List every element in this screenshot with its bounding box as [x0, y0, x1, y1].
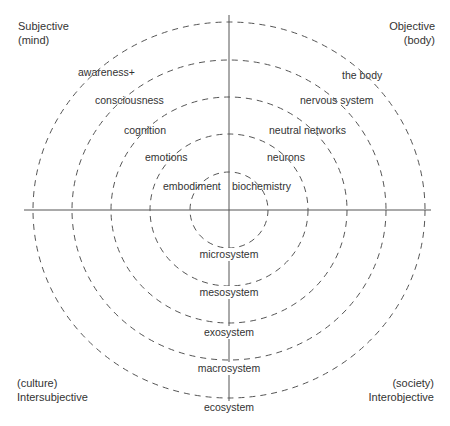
quadrant-bottom-right-title: Interobjective [369, 390, 434, 404]
systems-level-4: macrosystem [197, 362, 261, 375]
subjective-level-5: awareness+ [78, 66, 135, 79]
quadrant-top-right-label: Objective (body) [389, 19, 435, 47]
quadrant-bottom-right-label: (society) Interobjective [369, 376, 434, 404]
quadrant-top-left-label: Subjective (mind) [18, 19, 69, 47]
subjective-level-4: consciousness [95, 94, 164, 107]
objective-level-3: neutral networks [269, 124, 346, 137]
objective-level-2: neurons [267, 151, 305, 164]
quadrant-bottom-right-subtitle: (society) [369, 376, 434, 390]
systems-level-2: mesosystem [199, 286, 260, 299]
quadrant-top-right-subtitle: (body) [389, 33, 435, 47]
quadrant-bottom-left-title: Intersubjective [17, 390, 88, 404]
subjective-level-3: cognition [124, 124, 166, 137]
objective-level-5: the body [342, 69, 382, 82]
systems-level-3: exosystem [203, 326, 255, 339]
subjective-level-2: emotions [145, 151, 188, 164]
systems-level-1: microsystem [199, 248, 260, 261]
systems-level-5: ecosystem [203, 401, 255, 414]
objective-level-1: biochemistry [232, 180, 291, 193]
quadrant-top-left-title: Subjective [18, 19, 69, 33]
subjective-level-1: embodiment [163, 180, 221, 193]
quadrant-bottom-left-subtitle: (culture) [17, 376, 88, 390]
quadrant-top-left-subtitle: (mind) [18, 33, 69, 47]
objective-level-4: nervous system [300, 94, 374, 107]
quadrant-bottom-left-label: (culture) Intersubjective [17, 376, 88, 404]
quadrant-top-right-title: Objective [389, 19, 435, 33]
